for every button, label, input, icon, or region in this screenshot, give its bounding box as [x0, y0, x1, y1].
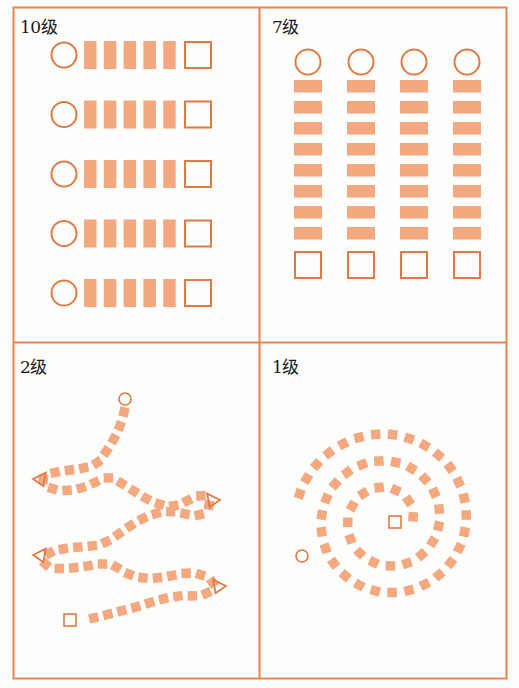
end-square-icon: [295, 252, 321, 278]
bar-segment: [453, 206, 481, 219]
start-circle-icon: [349, 50, 374, 75]
path-dash: [371, 429, 381, 439]
bar-segment: [347, 143, 375, 156]
bar-segment: [453, 185, 481, 198]
path-dash: [353, 579, 366, 592]
panel-level-7-shapes: [294, 50, 481, 279]
path-dash: [152, 573, 162, 583]
path-dash: [433, 520, 444, 531]
path-dash: [368, 556, 381, 569]
bar-segment: [453, 80, 481, 93]
path-dash: [402, 494, 415, 507]
bar-segment: [294, 227, 322, 240]
path-dash: [444, 556, 457, 569]
bar-segment: [294, 164, 322, 177]
path-dash: [140, 492, 153, 505]
bar-segment: [294, 80, 322, 93]
end-square-icon: [185, 280, 211, 306]
bar-segment: [347, 164, 375, 177]
path-dash: [123, 568, 135, 580]
bar-segment: [294, 143, 322, 156]
path-dash: [428, 487, 440, 499]
end-square-icon: [185, 102, 211, 128]
panel-level-2-shapes: [33, 393, 226, 626]
bar-segment: [400, 143, 428, 156]
panel-level-1-shapes: [294, 429, 471, 597]
panel-label-level-10: 10级: [20, 13, 57, 38]
path-dash: [443, 461, 456, 474]
path-dash: [166, 507, 176, 517]
start-circle-icon: [52, 102, 77, 127]
path-dash: [58, 543, 69, 554]
path-dash: [115, 477, 128, 490]
path-dash: [418, 472, 431, 485]
path-dash: [166, 570, 177, 581]
diagram-canvas: [0, 0, 519, 688]
path-dash: [386, 561, 396, 571]
path-dash: [453, 542, 466, 555]
path-dash: [87, 541, 97, 551]
bar-segment: [104, 220, 117, 248]
path-dash: [387, 429, 398, 440]
path-dash: [316, 527, 327, 538]
path-dash: [432, 568, 445, 581]
path-dash: [195, 569, 207, 581]
bar-segment: [453, 122, 481, 135]
path-dash: [337, 437, 350, 450]
start-circle-icon: [296, 50, 321, 75]
bar-segment: [400, 80, 428, 93]
path-dash: [200, 587, 213, 600]
path-dash: [320, 492, 332, 504]
bar-segment: [347, 80, 375, 93]
path-dash: [181, 568, 191, 578]
path-dash: [100, 536, 113, 549]
path-dash: [316, 509, 327, 520]
path-dash: [353, 432, 365, 444]
path-dash: [88, 612, 99, 623]
path-dash: [158, 593, 169, 604]
bar-segment: [124, 220, 137, 248]
path-dash: [459, 493, 470, 504]
path-dash: [327, 557, 340, 570]
path-dash: [390, 457, 401, 468]
path-dash: [102, 609, 114, 621]
end-square-icon: [389, 516, 401, 528]
bar-segment: [347, 206, 375, 219]
path-dash: [136, 512, 149, 525]
path-dash: [130, 601, 142, 613]
path-dash: [187, 591, 197, 601]
start-circle-icon: [455, 50, 480, 75]
bar-segment: [163, 41, 176, 69]
bar-segment: [104, 41, 117, 69]
start-circle-icon: [52, 43, 77, 68]
path-dash: [107, 433, 120, 446]
path-dash: [459, 526, 470, 537]
path-dash: [100, 445, 113, 458]
path-dash: [374, 482, 384, 492]
start-circle-icon: [52, 162, 77, 187]
path-dash: [328, 477, 341, 490]
path-dash: [434, 504, 444, 514]
bar-segment: [84, 220, 97, 248]
path-dash: [403, 432, 415, 444]
path-dash: [114, 420, 126, 432]
path-dash: [343, 517, 353, 527]
path-dash: [64, 465, 75, 476]
path-dash: [432, 448, 445, 461]
bar-segment: [400, 101, 428, 114]
path-dash: [54, 563, 64, 573]
bar-segment: [143, 279, 156, 307]
path-dash: [112, 528, 125, 541]
bar-segment: [163, 101, 176, 129]
path-dash: [461, 510, 471, 520]
bar-segment: [163, 160, 176, 188]
bar-segment: [453, 227, 481, 240]
bar-segment: [124, 160, 137, 188]
path-dash: [62, 485, 72, 495]
bar-segment: [104, 101, 117, 129]
path-dash: [405, 462, 418, 475]
end-square-icon: [185, 221, 211, 247]
bar-segment: [104, 160, 117, 188]
bar-segment: [143, 41, 156, 69]
path-dash: [144, 597, 156, 609]
